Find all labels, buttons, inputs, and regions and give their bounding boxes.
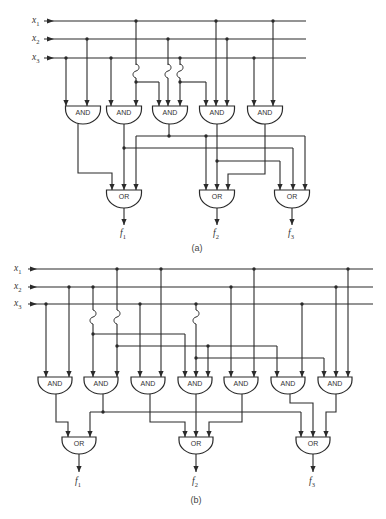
and-gate-b4: AND bbox=[178, 377, 212, 394]
arrow-down-icon bbox=[177, 100, 182, 106]
arrow-down-icon bbox=[114, 371, 119, 377]
arrow-down-icon bbox=[274, 371, 279, 377]
and-gate-b6: AND bbox=[271, 377, 305, 394]
arrow-down-icon bbox=[302, 184, 307, 190]
or-gate-b3-label: OR bbox=[308, 440, 319, 447]
crossover-hop bbox=[90, 310, 96, 324]
or-gate-a3: OR bbox=[275, 190, 310, 208]
and-gate-b6-label: AND bbox=[281, 380, 296, 387]
arrow-down-icon bbox=[165, 100, 170, 106]
arrow-down-icon bbox=[121, 219, 126, 225]
wire bbox=[150, 394, 185, 437]
arrow-down-icon bbox=[310, 466, 315, 472]
arrow-down-icon bbox=[182, 371, 187, 377]
arrow-down-icon bbox=[225, 184, 230, 190]
input-label-x1: x1 bbox=[13, 263, 21, 275]
wire bbox=[228, 124, 265, 190]
arrow-down-icon bbox=[214, 184, 219, 190]
arrow-down-icon bbox=[65, 431, 70, 437]
arrow-down-icon bbox=[333, 371, 338, 377]
output-label-f2: f2 bbox=[213, 228, 219, 240]
input-label-x2: x2 bbox=[13, 281, 21, 293]
or-gate-a2-label: OR bbox=[212, 193, 223, 200]
output-label-f1: f1 bbox=[120, 228, 126, 240]
arrow-right-icon bbox=[47, 36, 54, 41]
arrow-down-icon bbox=[270, 100, 275, 106]
wire bbox=[209, 394, 242, 437]
and-gate-a2-label: AND bbox=[117, 109, 132, 116]
arrow-down-icon bbox=[321, 371, 326, 377]
arrow-down-icon bbox=[90, 371, 95, 377]
arrow-down-icon bbox=[133, 184, 138, 190]
and-gate-b3: AND bbox=[131, 377, 165, 394]
input-label-x1: x1 bbox=[31, 15, 39, 27]
and-gate-b7: AND bbox=[318, 377, 352, 394]
and-gate-b1-label: AND bbox=[48, 380, 63, 387]
arrow-right-icon bbox=[30, 284, 37, 289]
crossover-hop bbox=[177, 64, 183, 78]
and-gate-a3-label: AND bbox=[163, 109, 178, 116]
arrow-down-icon bbox=[133, 100, 138, 106]
arrow-down-icon bbox=[224, 100, 229, 106]
or-gate-b2: OR bbox=[179, 437, 213, 454]
arrow-down-icon bbox=[298, 431, 303, 437]
and-gate-b2: AND bbox=[84, 377, 118, 394]
and-gate-b7-label: AND bbox=[328, 380, 343, 387]
arrow-right-icon bbox=[47, 55, 54, 60]
arrow-down-icon bbox=[310, 431, 315, 437]
arrow-down-icon bbox=[323, 431, 328, 437]
or-gate-b1: OR bbox=[62, 437, 96, 454]
arrow-down-icon bbox=[76, 466, 81, 472]
crossover-hop bbox=[133, 64, 139, 78]
logic-circuit-diagram: x1x2x3ANDANDANDANDANDORf1ORf2ORf3(a) x1x… bbox=[0, 0, 386, 519]
arrow-down-icon bbox=[66, 371, 71, 377]
and-gate-b2-label: AND bbox=[94, 380, 109, 387]
arrow-down-icon bbox=[193, 466, 198, 472]
or-gate-a1-label: OR bbox=[119, 193, 130, 200]
and-gate-a2: AND bbox=[107, 106, 142, 124]
crossover-hop bbox=[114, 310, 120, 324]
or-gate-b2-label: OR bbox=[191, 440, 202, 447]
output-label-f3: f3 bbox=[288, 228, 294, 240]
arrow-right-icon bbox=[30, 266, 37, 271]
wire bbox=[78, 124, 112, 190]
arrow-down-icon bbox=[156, 100, 161, 106]
arrow-down-icon bbox=[121, 184, 126, 190]
and-gate-a3: AND bbox=[153, 106, 188, 124]
arrow-down-icon bbox=[214, 219, 219, 225]
crossover-hop bbox=[193, 310, 199, 324]
and-gate-b1: AND bbox=[38, 377, 72, 394]
and-gate-b4-label: AND bbox=[188, 380, 203, 387]
or-gate-a2: OR bbox=[200, 190, 235, 208]
arrow-down-icon bbox=[345, 371, 350, 377]
arrow-down-icon bbox=[289, 219, 294, 225]
arrow-down-icon bbox=[109, 184, 114, 190]
arrow-down-icon bbox=[203, 184, 208, 190]
output-label-f1: f1 bbox=[75, 476, 81, 488]
output-label-f2: f2 bbox=[192, 476, 198, 488]
arrow-right-icon bbox=[30, 301, 37, 306]
arrow-down-icon bbox=[193, 371, 198, 377]
and-gate-b3-label: AND bbox=[141, 380, 156, 387]
and-gate-a5: AND bbox=[248, 106, 283, 124]
or-gate-a3-label: OR bbox=[287, 193, 298, 200]
panel-caption: (a) bbox=[192, 243, 203, 253]
input-label-x3: x3 bbox=[31, 52, 39, 64]
arrow-down-icon bbox=[228, 371, 233, 377]
arrow-down-icon bbox=[43, 371, 48, 377]
panel-caption: (b) bbox=[191, 495, 202, 505]
arrow-down-icon bbox=[158, 371, 163, 377]
wire bbox=[326, 394, 336, 437]
and-gate-a1-label: AND bbox=[76, 109, 91, 116]
arrow-down-icon bbox=[63, 100, 68, 106]
arrow-down-icon bbox=[206, 431, 211, 437]
arrow-down-icon bbox=[277, 184, 282, 190]
and-gate-b5: AND bbox=[224, 377, 258, 394]
and-gate-b5-label: AND bbox=[234, 380, 249, 387]
input-label-x3: x3 bbox=[13, 298, 21, 310]
arrow-down-icon bbox=[182, 431, 187, 437]
panel-b: x1x2x3ANDANDANDANDANDANDANDORf1ORf2ORf3(… bbox=[13, 263, 373, 505]
arrow-down-icon bbox=[108, 100, 113, 106]
arrow-down-icon bbox=[251, 100, 256, 106]
arrow-down-icon bbox=[137, 371, 142, 377]
